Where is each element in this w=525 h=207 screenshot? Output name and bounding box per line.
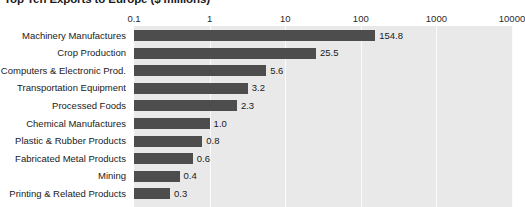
bar <box>134 48 316 59</box>
chart-row: 0.8 <box>134 133 512 151</box>
x-axis: 0.1110100100010000 <box>0 13 525 26</box>
bar <box>134 30 375 41</box>
chart-row: 0.3 <box>134 185 512 203</box>
chart-row: 0.4 <box>134 168 512 186</box>
y-category-label: Plastic & Rubber Products <box>15 135 126 146</box>
x-tick-label: 1 <box>207 13 212 24</box>
bar-value-label: 0.3 <box>174 188 187 199</box>
bar-value-label: 0.4 <box>184 170 197 181</box>
bar <box>134 65 266 76</box>
bar <box>134 188 170 199</box>
y-category-label: Processed Foods <box>52 100 126 111</box>
bar-chart: Top Ten Exports to Europe ($ millions) 0… <box>0 0 525 207</box>
bar <box>134 83 248 94</box>
bar-value-label: 25.5 <box>320 47 339 58</box>
y-category-label: Fabricated Metal Products <box>15 153 126 164</box>
y-category-label: Mining <box>98 170 126 181</box>
plot-area: 154.825.55.63.22.31.00.80.60.40.3 <box>134 26 512 207</box>
y-axis: Machinery ManufacturesCrop ProductionCom… <box>0 26 130 207</box>
bar <box>134 118 210 129</box>
chart-row: 3.2 <box>134 80 512 98</box>
y-category-label: Machinery Manufactures <box>22 30 126 41</box>
chart-row: 154.8 <box>134 27 512 45</box>
bar-value-label: 1.0 <box>214 118 227 129</box>
chart-title: Top Ten Exports to Europe ($ millions) <box>4 0 210 5</box>
chart-row: 2.3 <box>134 97 512 115</box>
bar-value-label: 2.3 <box>241 100 254 111</box>
bar-value-label: 0.6 <box>197 153 210 164</box>
y-category-label: Printing & Related Products <box>9 188 126 199</box>
y-category-label: Chemical Manufactures <box>26 118 126 129</box>
x-tick-label: 100 <box>353 13 369 24</box>
bar-value-label: 5.6 <box>270 65 283 76</box>
bar-value-label: 0.8 <box>206 135 219 146</box>
y-category-label: Transportation Equipment <box>17 82 126 93</box>
chart-row: 1.0 <box>134 115 512 133</box>
y-category-label: Crop Production <box>57 47 126 58</box>
x-tick-label: 0.1 <box>127 13 140 24</box>
gridline <box>512 26 513 207</box>
bar-value-label: 154.8 <box>379 30 403 41</box>
chart-row: 25.5 <box>134 45 512 63</box>
bar <box>134 100 237 111</box>
chart-row: 0.6 <box>134 150 512 168</box>
bar <box>134 136 202 147</box>
x-tick-label: 1000 <box>426 13 447 24</box>
bar <box>134 171 180 182</box>
y-category-label: Computers & Electronic Prod. <box>1 65 126 76</box>
x-tick-label: 10000 <box>499 13 525 24</box>
chart-row: 5.6 <box>134 62 512 80</box>
bar <box>134 153 193 164</box>
bar-value-label: 3.2 <box>252 82 265 93</box>
x-tick-label: 10 <box>280 13 291 24</box>
